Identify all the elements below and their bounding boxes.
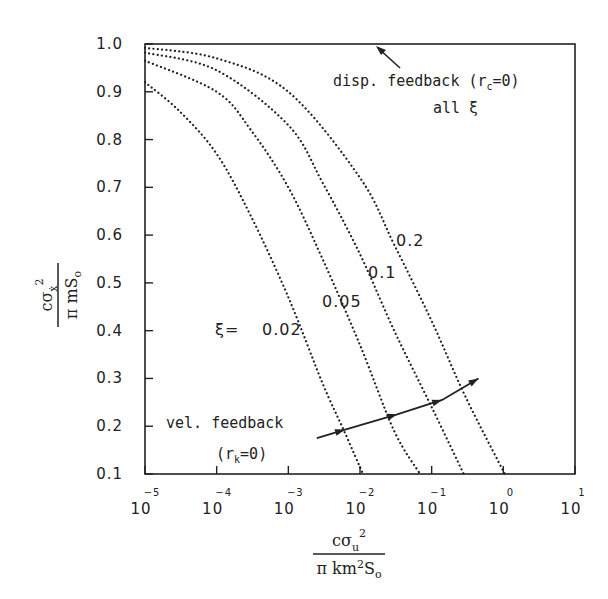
x-tick-base: 10: [202, 500, 223, 518]
plot-frame: [145, 44, 575, 474]
xi-prefix-label: ξ=: [215, 320, 239, 339]
x-tick-base: 10: [274, 500, 295, 518]
disp-label-line2: all ξ: [433, 99, 478, 117]
vel-label-a: (r: [216, 445, 234, 463]
x-tick-exponent: −3: [287, 487, 304, 498]
x-tick-exponent: −5: [144, 487, 161, 498]
x-tick-base: 10: [417, 500, 438, 518]
curve-label-0.1: 0.1: [368, 263, 396, 282]
x-tick-exponent: 0: [507, 487, 514, 498]
x-tick-exponent: −1: [430, 487, 447, 498]
vel-label-line1: vel. feedback: [166, 414, 283, 432]
y-tick-label: 0.9: [96, 83, 123, 101]
curve-label-0.05: 0.05: [322, 292, 362, 311]
disp-label-a: disp. feedback (r: [333, 72, 487, 90]
curve-xi-0.1: [145, 53, 464, 474]
arrowhead-icon: [468, 375, 480, 386]
y-axis-title: cσẋ2 π mSo: [33, 263, 84, 327]
x-axis-numerator: cσu2: [332, 527, 366, 554]
svg-text:disp. feedback (rc=0): disp. feedback (rc=0): [333, 72, 520, 92]
x-tick-exponent: −2: [359, 487, 376, 498]
x-tick-base: 10: [560, 500, 581, 518]
x-axis-title: cσu2 π km2So: [313, 527, 385, 581]
arrowhead-icon: [387, 411, 399, 421]
y-tick-label: 0.6: [96, 226, 123, 244]
disp-feedback-annotation: disp. feedback (rc=0) all ξ: [333, 46, 520, 117]
y-tick-label: 0.2: [96, 417, 123, 435]
vel-label-b: =0): [240, 445, 267, 463]
disp-label-b: =0): [493, 72, 520, 90]
y-axis-denominator: π mSo: [62, 270, 84, 319]
vel-feedback-line: [317, 378, 479, 438]
y-tick-label: 0.4: [96, 322, 123, 340]
y-tick-label: 0.8: [96, 131, 123, 149]
x-tick-exponent: −4: [215, 487, 232, 498]
y-tick-label: 1.0: [96, 35, 123, 53]
svg-text:(rk=0): (rk=0): [216, 445, 267, 465]
y-tick-label: 0.3: [96, 369, 123, 387]
x-tick-exponent: 1: [578, 487, 585, 498]
curve-label-0.2: 0.2: [396, 231, 424, 250]
x-tick-base: 10: [345, 500, 366, 518]
y-tick-label: 0.5: [96, 274, 123, 292]
chart: 1.00.90.80.70.60.50.40.30.20.1 −510−410−…: [0, 0, 608, 599]
y-axis-numerator: cσẋ2: [33, 278, 60, 311]
arrowhead-icon: [335, 426, 347, 436]
arrowhead-icon: [432, 397, 444, 407]
y-tick-label: 0.7: [96, 178, 123, 196]
y-tick-label: 0.1: [96, 465, 123, 483]
plot-border: [145, 44, 575, 474]
x-tick-base: 10: [130, 500, 151, 518]
x-tick-base: 10: [489, 500, 510, 518]
vel-feedback-annotation: vel. feedback (rk=0): [166, 414, 283, 465]
curve-label-0.02: 0.02: [262, 320, 302, 339]
x-axis-denominator: π km2So: [316, 558, 381, 581]
